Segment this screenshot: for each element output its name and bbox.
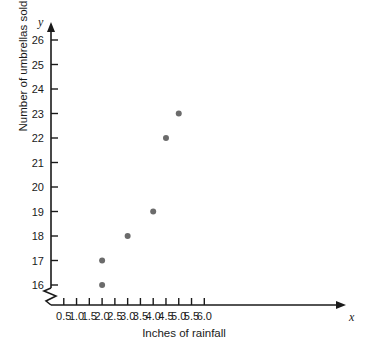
y-axis-tick-label: 16 [20,280,44,291]
scatter-plot-figure: 16171819202122232425260.51.01.52.02.53.0… [0,0,368,346]
plot-canvas [0,0,368,346]
data-point [163,135,169,141]
data-point [99,282,105,288]
data-point [176,111,182,117]
y-axis-tick-label: 17 [20,255,44,266]
x-axis-title: Inches of rainfall [0,327,368,339]
x-axis-tick-label: 6.0 [197,311,212,322]
data-point [125,233,131,239]
data-point [99,258,105,264]
y-axis-arrow-icon [47,22,55,32]
y-axis-symbol: y [38,16,43,28]
y-axis-title: Number of umbrellas sold [17,0,29,171]
y-axis-tick-label: 18 [20,231,44,242]
y-axis-tick-label: 19 [20,206,44,217]
data-point [150,209,156,215]
x-axis-arrow-icon [336,301,346,309]
y-axis-tick-label: 20 [20,182,44,193]
x-axis-symbol: x [349,311,354,323]
axis-break-icon [44,288,56,305]
